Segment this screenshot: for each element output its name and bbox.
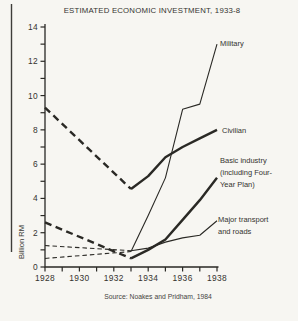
y-tick-label: 12	[28, 56, 38, 66]
line-basic-industry-including-four-year-plan-pre1933	[45, 222, 131, 258]
line-civilian	[131, 130, 217, 189]
line-military	[131, 44, 217, 251]
chart-title: ESTIMATED ECONOMIC INVESTMENT, 1933-8	[64, 6, 241, 15]
y-tick-label: 0	[33, 262, 38, 272]
line-military-pre1933	[45, 252, 131, 259]
line-major-transport-and-roads-pre1933	[45, 246, 131, 251]
source-caption: Source: Noakes and Pridham, 1984	[104, 293, 212, 300]
line-basic-industry-including-four-year-plan	[131, 178, 217, 259]
line-civilian-pre1933	[45, 108, 131, 189]
series-label-basic-industry-including-four-year-plan: (including Four-	[220, 168, 273, 177]
series-label-basic-industry-including-four-year-plan: Basic industry	[220, 156, 267, 165]
series-labels-layer: MilitaryCivilianBasic industry(including…	[218, 39, 273, 236]
y-tick-label: 14	[28, 22, 38, 32]
y-tick-label: 8	[33, 125, 38, 135]
x-tick-label: 1936	[172, 273, 192, 283]
series-label-civilian: Civilian	[222, 126, 246, 135]
x-tick-label: 1932	[104, 273, 124, 283]
axes-layer: 02468101214192819301932193419361938	[28, 22, 227, 283]
investment-chart: ESTIMATED ECONOMIC INVESTMENT, 1933-8 Bi…	[0, 0, 298, 321]
y-tick-label: 2	[33, 228, 38, 238]
x-tick-label: 1934	[138, 273, 158, 283]
axis-lines	[45, 24, 219, 267]
series-label-military: Military	[220, 39, 244, 48]
x-tick-label: 1938	[207, 273, 227, 283]
series-label-major-transport-and-roads: and roads	[218, 227, 252, 236]
scanned-chart-page: ESTIMATED ECONOMIC INVESTMENT, 1933-8 Bi…	[0, 0, 298, 321]
x-tick-label: 1928	[35, 273, 55, 283]
y-tick-label: 4	[33, 193, 38, 203]
series-layer	[45, 44, 217, 258]
y-tick-label: 10	[28, 91, 38, 101]
series-label-basic-industry-including-four-year-plan: Year Plan)	[220, 180, 255, 189]
y-tick-label: 6	[33, 159, 38, 169]
y-axis-label: Billion RM	[17, 225, 26, 259]
series-label-major-transport-and-roads: Major transport	[218, 215, 269, 224]
x-tick-label: 1930	[69, 273, 89, 283]
